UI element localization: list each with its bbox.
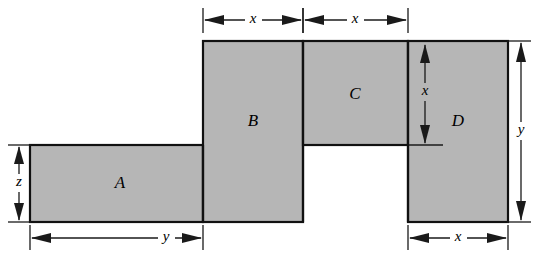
arrow-head-bottom-right-west — [409, 233, 429, 243]
dimension-bottom-y: y — [30, 225, 203, 250]
arrow-head-top-right-west — [304, 15, 324, 25]
region-label-A: A — [114, 173, 126, 192]
dim-label-inner-d-x: x — [421, 82, 429, 98]
dim-label-top-right-x: x — [351, 10, 359, 26]
dim-label-bottom-y: y — [161, 228, 170, 244]
dimension-top-left-x: x — [203, 8, 303, 33]
arrow-head-left-z-north — [14, 146, 24, 164]
dim-label-bottom-right-x: x — [454, 228, 462, 244]
dimension-top-right-x: x — [303, 8, 408, 33]
arrow-head-left-z-south — [14, 203, 24, 221]
arrow-head-right-y-north — [516, 42, 526, 62]
region-label-B: B — [248, 111, 259, 130]
arrow-head-top-right-east — [387, 15, 407, 25]
dim-label-left-z: z — [15, 173, 22, 189]
arrow-head-bottom-y-west — [31, 233, 51, 243]
geometry-figure: A B C D x x — [0, 0, 537, 258]
arrow-head-top-left-west — [204, 15, 224, 25]
arrow-head-bottom-y-east — [182, 233, 202, 243]
arrow-head-right-y-south — [516, 201, 526, 221]
dim-label-right-y: y — [516, 121, 525, 137]
arrow-head-top-left-east — [282, 15, 302, 25]
region-label-D: D — [451, 111, 465, 130]
region-label-C: C — [349, 84, 361, 103]
composite-region-svg: A B C D x x — [0, 0, 537, 258]
dimension-bottom-right-x: x — [408, 225, 508, 250]
dimension-left-z: z — [8, 145, 31, 222]
arrow-head-bottom-right-east — [487, 233, 507, 243]
dimension-right-y: y — [507, 41, 531, 222]
dim-label-top-left-x: x — [249, 10, 257, 26]
region-B-shape — [203, 41, 303, 222]
regions-group — [30, 41, 508, 222]
